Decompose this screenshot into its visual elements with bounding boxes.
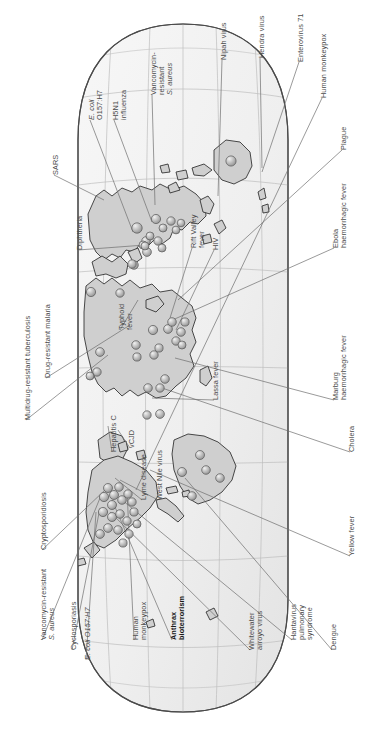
disease-marker bbox=[108, 501, 117, 510]
disease-label-marburg: Marburghaemorrhagic fever bbox=[332, 335, 348, 400]
label-line: syndrome bbox=[305, 607, 314, 640]
label-line: Drug-resistant malaria bbox=[43, 304, 52, 378]
disease-marker bbox=[128, 260, 136, 268]
label-line: arroyo virus bbox=[255, 611, 264, 650]
disease-label-whitewater: Whitewaterarroyo virus bbox=[248, 611, 264, 650]
disease-label-plague: Plague bbox=[340, 127, 348, 150]
label-line: influenza bbox=[119, 90, 128, 120]
disease-marker bbox=[196, 451, 205, 460]
disease-marker bbox=[148, 325, 157, 334]
disease-marker bbox=[115, 483, 124, 492]
disease-marker bbox=[123, 517, 131, 525]
disease-marker bbox=[128, 498, 136, 506]
disease-marker bbox=[96, 348, 105, 357]
disease-label-ebola: Ebolahaemorrhagic fever bbox=[332, 183, 348, 248]
label-line: Plague bbox=[339, 127, 348, 150]
disease-marker bbox=[150, 351, 158, 359]
disease-label-diphtheria: Diphtheria bbox=[76, 216, 84, 250]
label-line: Yellow fever bbox=[347, 516, 356, 556]
disease-marker bbox=[143, 411, 151, 419]
label-line: Hendra virus bbox=[257, 15, 266, 58]
disease-marker bbox=[116, 510, 125, 519]
disease-marker bbox=[158, 244, 166, 252]
label-line: fever bbox=[125, 313, 134, 330]
disease-marker bbox=[141, 242, 149, 250]
label-line: HIV bbox=[211, 238, 220, 250]
disease-label-rift-valley: Rift Valleyfever bbox=[190, 215, 206, 248]
label-line: Lyme disease bbox=[139, 454, 148, 500]
label-line: Dengue bbox=[329, 624, 338, 650]
disease-marker bbox=[99, 492, 108, 501]
disease-marker bbox=[124, 490, 132, 498]
label-line: Multidrug-resistant tuberculosis bbox=[23, 316, 32, 420]
disease-label-hiv: HIV bbox=[212, 238, 220, 250]
disease-label-h5n1: H5N1influenza bbox=[112, 90, 128, 120]
label-line: Diphtheria bbox=[75, 216, 84, 250]
disease-label-cryptosporidiosis: Cryptosporidiosis bbox=[40, 492, 48, 550]
disease-label-vrsa-top: Vancomycin-resistantS. aureus bbox=[150, 52, 175, 95]
disease-marker bbox=[110, 491, 119, 500]
disease-marker bbox=[133, 353, 141, 361]
disease-marker bbox=[132, 341, 141, 350]
disease-marker bbox=[133, 520, 141, 528]
disease-marker bbox=[104, 524, 113, 533]
label-line: vCJD bbox=[127, 430, 136, 448]
disease-label-typhoid: Typhoidfever bbox=[118, 304, 134, 330]
disease-label-hendra: Hendra virus bbox=[258, 15, 266, 58]
disease-label-sars: SARS bbox=[52, 155, 60, 175]
disease-marker bbox=[181, 318, 189, 326]
disease-marker bbox=[161, 375, 170, 384]
disease-marker bbox=[202, 466, 211, 475]
label-line: Hepatitis C bbox=[109, 415, 118, 452]
label-line: bioterrorism bbox=[177, 596, 186, 640]
disease-label-anthrax: Anthraxbioterrorism bbox=[170, 596, 186, 640]
disease-marker bbox=[114, 526, 123, 535]
disease-label-enterovirus71: Enterovirus 71 bbox=[297, 14, 305, 62]
disease-marker bbox=[130, 508, 138, 516]
disease-label-human-monkeypox-r: Human monkeypox bbox=[320, 34, 328, 98]
disease-label-lyme: Lyme disease bbox=[140, 454, 148, 500]
disease-marker bbox=[116, 289, 124, 297]
disease-marker bbox=[86, 372, 94, 380]
disease-label-human-monkeypox: Humanmonkeypox bbox=[132, 602, 148, 640]
disease-label-dengue: Dengue bbox=[330, 624, 338, 650]
label-line: S. aureus bbox=[47, 608, 56, 640]
disease-marker bbox=[159, 224, 167, 232]
label-line: E. coli O157:H7 bbox=[83, 607, 92, 660]
disease-label-cholera: Cholera bbox=[348, 426, 356, 452]
disease-label-lassa: Lassa fever bbox=[212, 361, 220, 400]
disease-marker bbox=[125, 530, 133, 538]
disease-label-yellow-fever: Yellow fever bbox=[348, 516, 356, 556]
label-line: monkeypox bbox=[139, 602, 148, 640]
disease-marker bbox=[156, 384, 164, 392]
disease-marker bbox=[119, 539, 127, 547]
label-line: haemorrhagic fever bbox=[339, 183, 348, 248]
disease-label-dr-malaria: Drug-resistant malaria bbox=[44, 304, 52, 378]
disease-marker bbox=[108, 513, 117, 522]
disease-marker bbox=[178, 341, 186, 349]
label-line: S. aureus bbox=[165, 63, 174, 95]
disease-marker bbox=[151, 214, 160, 223]
label-line: fever bbox=[197, 231, 206, 248]
label-line: Cholera bbox=[347, 426, 356, 452]
disease-marker bbox=[155, 344, 163, 352]
disease-label-ecoli-bottom: E. coli O157:H7 bbox=[84, 607, 92, 660]
disease-label-west-nile: West Nile virus bbox=[156, 450, 164, 500]
disease-label-vrsa-bottom: Vancomycin-resistantS. aureus bbox=[40, 569, 56, 640]
label-line: West Nile virus bbox=[155, 450, 164, 500]
disease-marker bbox=[188, 492, 197, 501]
disease-marker bbox=[167, 217, 175, 225]
label-line: Nipah virus bbox=[219, 22, 228, 60]
disease-label-cyclosporiasis: Cyclosporiasis bbox=[70, 602, 78, 650]
disease-label-mdr-tb: Multidrug-resistant tuberculosis bbox=[24, 316, 32, 420]
label-line: Lassa fever bbox=[211, 361, 220, 400]
emerging-diseases-world-map-figure: SARSE. coliO157:H7H5N1influenzaVancomyci… bbox=[0, 0, 367, 738]
label-line: SARS bbox=[51, 155, 60, 175]
disease-marker bbox=[96, 530, 105, 539]
label-line: Enterovirus 71 bbox=[296, 14, 305, 62]
disease-marker bbox=[172, 226, 180, 234]
label-line: haemorrhagic fever bbox=[339, 335, 348, 400]
disease-marker bbox=[177, 328, 186, 337]
disease-label-vcjd: vCJD bbox=[128, 430, 136, 448]
disease-marker bbox=[98, 507, 107, 516]
